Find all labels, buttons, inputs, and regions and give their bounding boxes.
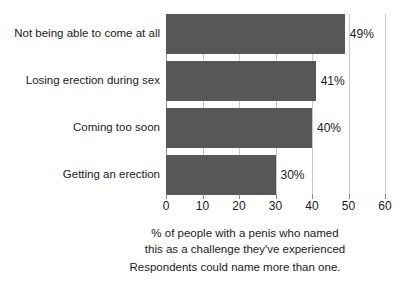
x-tick-label: 20 bbox=[232, 200, 245, 212]
bar-value-label: 41% bbox=[321, 75, 345, 87]
table-row: 40% bbox=[166, 108, 385, 148]
bar-chart: Not being able to come at all Losing ere… bbox=[0, 0, 417, 288]
x-axis-caption-line-2: this as a challenge they've experienced bbox=[110, 242, 380, 258]
bar[interactable] bbox=[166, 14, 345, 54]
plot-area: 49% 41% 40% 30% bbox=[166, 14, 385, 194]
bars-layer: 49% 41% 40% 30% bbox=[166, 14, 385, 194]
category-label: Losing erection during sex bbox=[0, 61, 160, 101]
footnote: Respondents could name more than one. bbox=[95, 260, 375, 275]
table-row: 30% bbox=[166, 155, 385, 195]
bar-value-label: 40% bbox=[317, 122, 341, 134]
x-tick-label: 40 bbox=[305, 200, 318, 212]
category-label: Coming too soon bbox=[0, 108, 160, 148]
x-tick-label: 30 bbox=[269, 200, 282, 212]
category-label: Getting an erection bbox=[0, 155, 160, 195]
gridline bbox=[385, 14, 386, 194]
x-axis-caption-line-1: % of people with a penis who named bbox=[110, 226, 380, 242]
x-axis: 0102030405060 bbox=[166, 194, 385, 216]
x-axis-caption: % of people with a penis who named this … bbox=[110, 226, 380, 257]
table-row: 41% bbox=[166, 61, 385, 101]
category-label: Not being able to come at all bbox=[0, 14, 160, 54]
x-tick-label: 60 bbox=[378, 200, 391, 212]
bar[interactable] bbox=[166, 61, 316, 101]
x-tick-label: 10 bbox=[196, 200, 209, 212]
category-axis-labels: Not being able to come at all Losing ere… bbox=[0, 14, 160, 194]
bar-value-label: 30% bbox=[281, 169, 305, 181]
bar-value-label: 49% bbox=[350, 28, 374, 40]
table-row: 49% bbox=[166, 14, 385, 54]
x-tick-label: 0 bbox=[163, 200, 170, 212]
x-tick-label: 50 bbox=[342, 200, 355, 212]
bar[interactable] bbox=[166, 155, 276, 195]
bar[interactable] bbox=[166, 108, 312, 148]
